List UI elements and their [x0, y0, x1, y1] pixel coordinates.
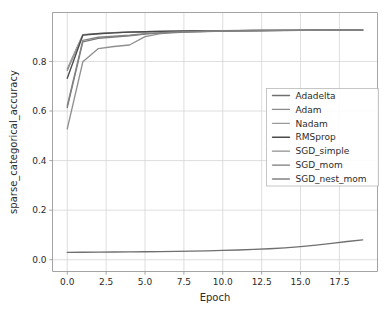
- x-tick-label: 15.0: [291, 277, 311, 287]
- x-tick-label: 12.5: [252, 277, 272, 287]
- series-line-adadelta: [67, 240, 362, 253]
- legend-label-rmsprop: RMSprop: [296, 132, 336, 142]
- x-tick-label: 7.5: [177, 277, 191, 287]
- line-chart: 0.02.55.07.510.012.515.017.50.00.20.40.6…: [0, 0, 391, 315]
- x-tick-label: 5.0: [138, 277, 153, 287]
- legend-label-sgd_mom: SGD_mom: [296, 160, 343, 170]
- y-tick-label: 0.0: [32, 255, 47, 265]
- x-tick-label: 2.5: [99, 277, 113, 287]
- y-axis-title: sparse_categorical_accuracy: [8, 70, 20, 214]
- legend-label-sgd_nest_mom: SGD_nest_mom: [296, 174, 367, 184]
- y-tick-label: 0.4: [32, 156, 47, 166]
- legend-label-adadelta: Adadelta: [296, 91, 336, 101]
- figure-canvas: 0.02.55.07.510.012.515.017.50.00.20.40.6…: [0, 0, 391, 315]
- legend-label-sgd_simple: SGD_simple: [296, 146, 350, 156]
- x-axis-title: Epoch: [200, 292, 231, 303]
- x-tick-label: 10.0: [213, 277, 233, 287]
- legend: AdadeltaAdamNadamRMSpropSGD_simpleSGD_mo…: [267, 89, 379, 187]
- y-tick-label: 0.8: [32, 57, 47, 67]
- x-tick-label: 17.5: [329, 277, 349, 287]
- x-tick-label: 0.0: [60, 277, 75, 287]
- y-tick-label: 0.2: [32, 205, 46, 215]
- legend-label-adam: Adam: [296, 105, 322, 115]
- legend-label-nadam: Nadam: [296, 119, 328, 129]
- y-tick-label: 0.6: [32, 106, 47, 116]
